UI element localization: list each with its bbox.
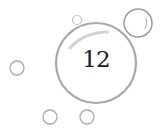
bubble-bottom-right [80, 110, 94, 124]
bubble-number: 12 [66, 46, 126, 72]
highlight-dot [105, 30, 109, 34]
bubble-left [10, 61, 24, 75]
bubble-illustration: 12 [0, 0, 164, 136]
small-bubble-top [73, 16, 82, 25]
bubble-top-right-highlight [145, 18, 147, 29]
bubble-top-right [124, 9, 152, 37]
bubble-bottom-left [43, 110, 57, 124]
